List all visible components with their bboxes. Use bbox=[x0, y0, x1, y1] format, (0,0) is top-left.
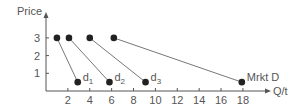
x-axis-arrow-icon bbox=[265, 89, 271, 94]
series-mrkt-d: Mrkt D bbox=[111, 35, 280, 86]
demand-line bbox=[114, 38, 242, 82]
data-point bbox=[111, 35, 118, 42]
x-tick-label: 14 bbox=[193, 94, 205, 106]
x-axis-label: Q/t bbox=[273, 85, 288, 97]
series-label: d1 bbox=[83, 71, 94, 86]
data-point bbox=[142, 79, 149, 86]
series-label: d3 bbox=[151, 71, 162, 86]
series-label: d2 bbox=[114, 71, 125, 86]
data-point bbox=[106, 79, 113, 86]
data-point bbox=[239, 79, 246, 86]
y-tick-label: 3 bbox=[34, 32, 40, 44]
demand-chart: Price Q/t 123 24681012141618 d1d2d3Mrkt … bbox=[0, 0, 300, 108]
y-axis-label: Price bbox=[17, 5, 42, 17]
data-point bbox=[86, 35, 93, 42]
x-tick-label: 4 bbox=[87, 94, 93, 106]
y-tick-label: 2 bbox=[34, 50, 40, 62]
x-tick-label: 18 bbox=[237, 94, 249, 106]
data-point bbox=[54, 35, 61, 42]
x-tick-label: 16 bbox=[215, 94, 227, 106]
y-tick-label: 1 bbox=[34, 67, 40, 79]
x-tick-label: 2 bbox=[65, 94, 71, 106]
x-axis bbox=[46, 89, 271, 94]
y-ticks: 123 bbox=[34, 32, 49, 79]
y-axis bbox=[44, 12, 49, 91]
x-tick-label: 10 bbox=[149, 94, 161, 106]
series-label: Mrkt D bbox=[247, 71, 279, 83]
data-point bbox=[66, 35, 73, 42]
data-point bbox=[74, 79, 81, 86]
y-axis-arrow-icon bbox=[44, 12, 49, 18]
series-d1: d1 bbox=[54, 35, 94, 87]
x-tick-label: 8 bbox=[130, 94, 136, 106]
x-tick-label: 6 bbox=[109, 94, 115, 106]
x-tick-label: 12 bbox=[171, 94, 183, 106]
series-group: d1d2d3Mrkt D bbox=[54, 35, 280, 87]
